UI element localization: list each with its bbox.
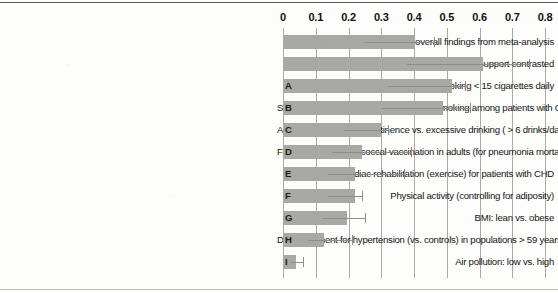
error-bar-cap xyxy=(411,147,412,157)
error-bar-cap xyxy=(365,213,366,223)
x-axis-tick-label: 0.5 xyxy=(439,11,454,23)
chart-row: Alcohol consumption: abstinence vs. exce… xyxy=(0,119,558,141)
chart-row: Air pollution: low vs. highI xyxy=(0,251,558,273)
error-bar-cap xyxy=(470,103,471,113)
figure-container: 00.10.20.30.40.50.60.70.8Social relation… xyxy=(0,0,558,293)
chart-row: Social relationships: high vs. low socia… xyxy=(0,53,558,75)
error-bar-line xyxy=(328,174,405,175)
x-axis-tick-label: 0 xyxy=(280,11,286,23)
bar-letter-label: I xyxy=(283,255,288,269)
chart-row: BMI: lean vs. obeseG xyxy=(0,207,558,229)
bar-letter-label: B xyxy=(283,101,292,115)
error-bar-cap xyxy=(529,59,530,69)
bar-letter-label: D xyxy=(283,145,292,159)
chart-row: Smoking cessation: cease vs. continue sm… xyxy=(0,97,558,119)
error-bar-line xyxy=(328,196,362,197)
x-axis-tick-label: 0.3 xyxy=(374,11,389,23)
x-axis-tick-label: 0.1 xyxy=(308,11,323,23)
bar-letter-label: E xyxy=(283,167,291,181)
chart-row: Social relationships: overall findings f… xyxy=(0,31,558,53)
error-bar-cap xyxy=(303,257,304,267)
error-bar-line xyxy=(344,130,388,131)
bar-letter-label: A xyxy=(283,79,292,93)
error-bar-line xyxy=(364,42,433,43)
error-bar-line xyxy=(291,262,303,263)
x-axis-tick-label: 0.7 xyxy=(505,11,520,23)
bar-letter-label: G xyxy=(283,211,292,225)
bar-letter-label: C xyxy=(283,123,292,137)
x-axis-tick-label: 0.4 xyxy=(407,11,422,23)
forest-bar-chart: 00.10.20.30.40.50.60.70.8Social relation… xyxy=(0,0,558,293)
category-label: Air pollution: low vs. high xyxy=(277,251,558,273)
chart-row: Cardiac rehabilitation (exercise) for pa… xyxy=(0,163,558,185)
error-bar-line xyxy=(382,108,469,109)
x-axis-tick-label: 0.2 xyxy=(341,11,356,23)
error-bar-cap xyxy=(404,169,405,179)
error-bar-cap xyxy=(362,191,363,201)
x-axis-tick-label: 0.6 xyxy=(472,11,487,23)
error-bar-line xyxy=(332,152,411,153)
x-axis-tick-label: 0.8 xyxy=(538,11,553,23)
error-bar-cap xyxy=(388,125,389,135)
error-bar-line xyxy=(407,64,529,65)
chart-row: Physical activity (controlling for adipo… xyxy=(0,185,558,207)
error-bar-line xyxy=(323,218,365,219)
error-bar-line xyxy=(388,86,465,87)
error-bar-line xyxy=(308,240,351,241)
chart-row: Flu vaccine: pneumococcal vaccination in… xyxy=(0,141,558,163)
chart-row: Smoking < 15 cigarettes dailyA xyxy=(0,75,558,97)
bar-letter-label: F xyxy=(283,189,291,203)
error-bar-cap xyxy=(434,37,435,47)
bar-letter-label: H xyxy=(283,233,292,247)
error-bar-cap xyxy=(465,81,466,91)
chart-row: Drug treatment for hypertension (vs. con… xyxy=(0,229,558,251)
error-bar-cap xyxy=(352,235,353,245)
